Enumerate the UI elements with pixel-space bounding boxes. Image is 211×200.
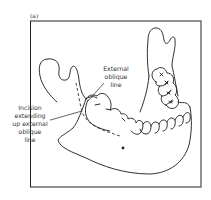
external-oblique-leader [88,83,104,101]
figure-frame [31,21,202,187]
teeth-row [86,93,190,134]
mental-foramen [122,147,125,150]
tooth-markings [95,73,172,121]
svg-text:line: line [110,81,121,88]
svg-text:oblique: oblique [105,73,128,81]
external-oblique-label: External oblique line [103,65,129,88]
panel-label: (a) [30,12,38,19]
incision-leader [47,111,82,121]
mandible-diagram: (a) External oblique line Incision exten… [0,0,211,200]
svg-text:External: External [103,65,129,72]
posterior-molars [152,68,179,109]
